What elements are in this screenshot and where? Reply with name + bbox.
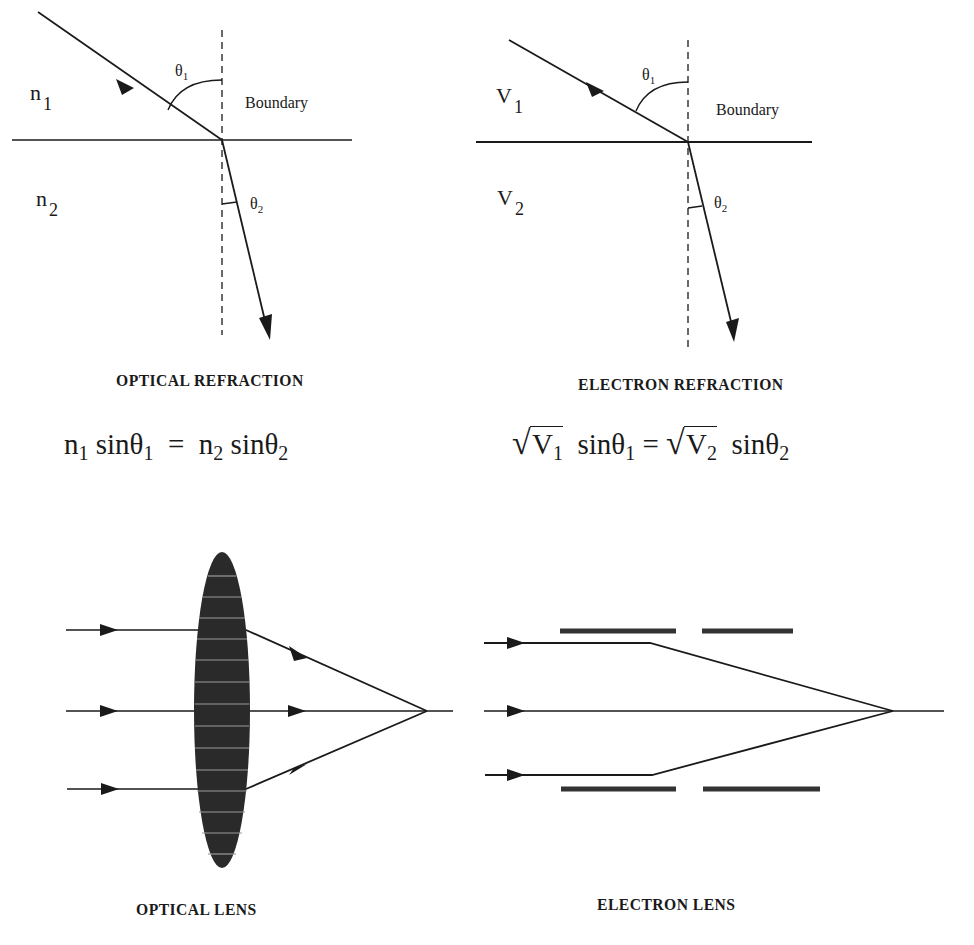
arrow-icon xyxy=(100,705,118,717)
incident-arrow-icon xyxy=(586,82,604,97)
theta2-arc xyxy=(222,202,237,204)
boundary-label: Boundary xyxy=(716,101,779,119)
refracted-ray xyxy=(688,142,733,330)
optical-lens-diagram xyxy=(66,552,453,868)
electron-lens-diagram xyxy=(484,631,944,789)
ray-bottom xyxy=(485,711,893,775)
snell-equation: n1 sinθ1 = n2 sinθ2 xyxy=(64,428,288,465)
ray-top-out xyxy=(246,630,427,711)
refracted-arrow-icon xyxy=(726,318,739,342)
ray-bot-out xyxy=(246,711,427,789)
theta2-label: θ2 xyxy=(250,195,263,215)
diagram-canvas xyxy=(0,0,974,945)
theta2-arc xyxy=(688,206,702,208)
arrow-icon xyxy=(507,637,525,649)
arrow-icon xyxy=(289,646,307,661)
refracted-arrow-icon xyxy=(259,314,272,340)
theta1-arc xyxy=(168,80,222,110)
boundary-label: Boundary xyxy=(245,94,308,112)
arrow-icon xyxy=(507,705,525,717)
theta1-label: θ1 xyxy=(175,62,188,82)
optical-lens-caption: OPTICAL LENS xyxy=(136,900,257,920)
arrow-icon xyxy=(101,783,119,795)
electron-lens-caption: ELECTRON LENS xyxy=(597,895,736,915)
incident-ray xyxy=(38,12,222,140)
electron-snell-equation: √V1 sinθ1 = √V2 sinθ2 xyxy=(512,428,789,465)
electron-refraction-diagram xyxy=(476,40,812,352)
arrow-icon xyxy=(507,769,525,781)
sqrt-v2: √V2 xyxy=(666,428,717,465)
theta1-label: θ1 xyxy=(642,66,655,86)
incident-arrow-icon xyxy=(116,79,134,95)
medium-n2-label: n2 xyxy=(36,186,58,221)
medium-v2-label: V2 xyxy=(497,185,524,220)
theta1-arc xyxy=(636,82,688,111)
lens-shape xyxy=(194,552,250,868)
optical-refraction-caption: OPTICAL REFRACTION xyxy=(116,371,304,391)
medium-n1-label: n1 xyxy=(30,80,52,115)
arrow-icon xyxy=(288,705,306,717)
arrow-icon xyxy=(100,624,118,636)
refracted-ray xyxy=(222,140,266,325)
medium-v1-label: V1 xyxy=(496,83,523,118)
theta2-label: θ2 xyxy=(714,194,727,214)
electron-refraction-caption: ELECTRON REFRACTION xyxy=(578,375,784,395)
ray-top xyxy=(484,643,893,711)
sqrt-v1: √V1 xyxy=(512,428,563,465)
